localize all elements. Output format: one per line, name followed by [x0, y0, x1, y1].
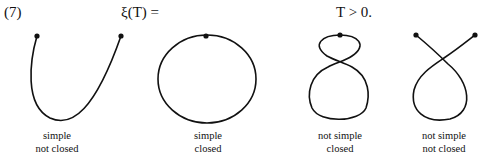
- endpoint-dot: [203, 33, 208, 38]
- caption-not-simple-closed: not simple closed: [290, 129, 390, 155]
- endpoint-dot: [472, 32, 477, 37]
- curve-simple-closed: [158, 35, 256, 123]
- endpoint-dot: [34, 33, 39, 38]
- curve-not-simple-closed: [309, 35, 368, 119]
- endpoint-dot: [118, 33, 123, 38]
- caption-not-simple-not-closed: not simple not closed: [394, 129, 494, 155]
- endpoint-dot: [413, 32, 418, 37]
- caption-simple-not-closed: simple not closed: [7, 129, 107, 155]
- curve-not-simple-not-closed: [413, 35, 475, 120]
- endpoint-dot: [337, 32, 342, 37]
- curve-simple-not-closed: [31, 36, 121, 121]
- caption-simple-closed: simple closed: [158, 129, 258, 155]
